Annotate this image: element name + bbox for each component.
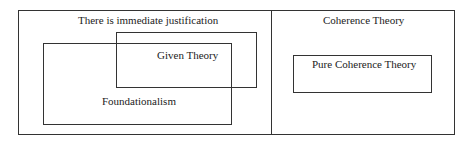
foundationalism-box (43, 43, 232, 125)
pure-coherence-theory-label: Pure Coherence Theory (312, 58, 416, 70)
foundationalism-label: Foundationalism (102, 95, 176, 107)
immediate-justification-label: There is immediate justification (78, 14, 218, 26)
coherence-theory-label: Coherence Theory (323, 14, 404, 26)
